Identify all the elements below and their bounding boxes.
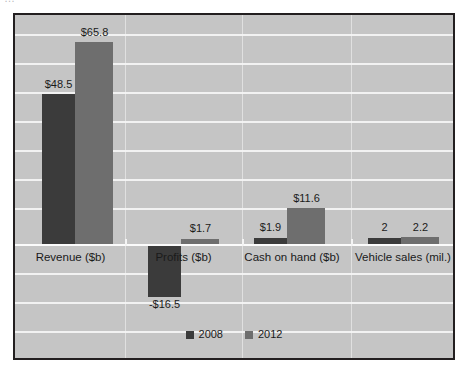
category-tick — [125, 239, 127, 246]
category-tick — [242, 239, 244, 246]
legend-swatch-icon — [245, 331, 253, 339]
bar-2012-revenue[interactable] — [75, 42, 113, 244]
chart-legend: 2008 2012 — [15, 329, 453, 340]
legend-swatch-icon — [186, 331, 194, 339]
category-label-cash: Cash on hand ($b) — [236, 251, 348, 264]
bar-2012-vehicle[interactable] — [401, 237, 439, 244]
category-separator — [242, 15, 243, 358]
gridline — [15, 273, 453, 275]
category-label-profits: Profits ($b) — [130, 251, 237, 264]
category-label-revenue: Revenue ($b) — [17, 251, 124, 264]
chart-frame: $48.5 $65.8 Revenue ($b) -$16.5 $1.7 Pro… — [13, 13, 455, 360]
zero-axis-line — [15, 244, 453, 246]
category-label-vehicle: Vehicle sales (mil.) — [347, 251, 455, 264]
bar-2012-cash[interactable] — [287, 208, 325, 244]
bar-label-2008-profits: -$16.5 — [133, 298, 196, 310]
legend-item-2008[interactable]: 2008 — [186, 329, 223, 340]
bar-2008-revenue[interactable] — [42, 94, 75, 244]
bar-label-2012-vehicle: 2.2 — [389, 221, 452, 233]
category-separator — [351, 15, 352, 358]
bar-2012-profits[interactable] — [181, 239, 219, 244]
bar-label-2012-cash: $11.6 — [275, 192, 338, 204]
legend-label-2012: 2012 — [258, 329, 282, 340]
bar-label-2012-revenue: $65.8 — [63, 26, 126, 38]
caption-text: … — [4, 0, 15, 4]
legend-label-2008: 2008 — [199, 329, 223, 340]
gridline — [15, 302, 453, 304]
bar-2008-cash[interactable] — [254, 238, 287, 244]
category-tick — [351, 239, 353, 246]
legend-item-2012[interactable]: 2012 — [245, 329, 282, 340]
caption-strip: … — [0, 0, 468, 12]
plot-area: $48.5 $65.8 Revenue ($b) -$16.5 $1.7 Pro… — [15, 15, 453, 358]
bar-label-2012-profits: $1.7 — [169, 222, 232, 234]
category-separator — [125, 15, 126, 358]
bar-2008-vehicle[interactable] — [368, 238, 401, 244]
